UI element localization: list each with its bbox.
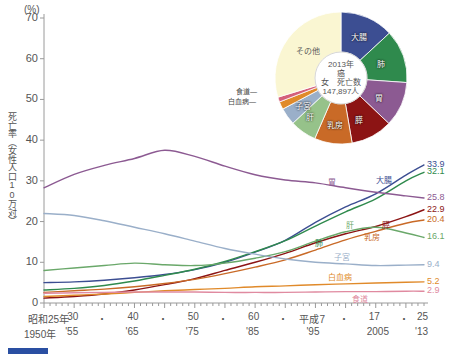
- x-tick-top-5: 50: [188, 311, 199, 322]
- pie-label-乳房: 乳房: [327, 119, 343, 130]
- end-value-肝: 16.1: [427, 231, 445, 241]
- x-tick-bottom-3: '75: [186, 326, 199, 337]
- x-tick-top-8: ・: [278, 311, 288, 326]
- x-tick-top-7: 60: [248, 311, 259, 322]
- inline-label-食道: 食道: [352, 293, 368, 304]
- pie-label-大腸: 大腸: [351, 31, 367, 42]
- pie-label-子宮: 子宮: [295, 100, 311, 111]
- x-tick-bottom-7: '13: [415, 326, 428, 337]
- x-tick-top-6: ・: [218, 311, 228, 326]
- pie-label-その他: その他: [296, 45, 320, 56]
- inline-label-乳房: 乳房: [364, 231, 380, 242]
- x-tick-bottom-6: 2005: [367, 326, 389, 337]
- pie-center-text: 2013年 癌 女 死亡数 147,897人: [304, 60, 378, 96]
- x-tick-top-10: ・: [339, 311, 349, 326]
- x-tick-bottom-0: 1950年: [24, 326, 56, 341]
- inline-label-子宮: 子宮: [334, 251, 350, 262]
- inline-label-白血病: 白血病: [328, 271, 352, 282]
- end-value-乳房: 20.4: [427, 214, 445, 224]
- series-line-膵: [44, 210, 424, 298]
- end-value-胃: 25.8: [427, 192, 445, 202]
- pie-center-line3: 女 死亡数: [304, 78, 378, 87]
- pie-center-year: 2013年: [304, 60, 378, 69]
- x-tick-top-11: 17: [369, 311, 380, 322]
- x-tick-top-13: 25: [417, 311, 428, 322]
- x-tick-bottom-5: '95: [306, 326, 319, 337]
- x-tick-bottom-2: '65: [125, 326, 138, 337]
- x-tick-bottom-1: '55: [65, 326, 78, 337]
- end-value-食道: 2.9: [427, 285, 440, 295]
- inline-label-膵: 膵: [382, 219, 390, 230]
- pie-leader-label-食道: 食道—: [236, 86, 257, 96]
- x-tick-bottom-4: '85: [246, 326, 259, 337]
- x-tick-top-2: ・: [97, 311, 107, 326]
- x-tick-top-4: ・: [158, 311, 168, 326]
- end-value-肺: 32.1: [427, 166, 445, 176]
- chart-root: (%) 死亡率（女性人口10万対） 706050403020100 大腸肺胃膵乳…: [0, 0, 458, 359]
- inline-label-肺: 肺: [315, 237, 323, 248]
- footer-swatch: [8, 348, 48, 354]
- series-line-胃: [44, 150, 424, 198]
- pie-label-肝: 肝: [306, 111, 314, 122]
- x-tick-top-3: 40: [127, 311, 138, 322]
- pie-label-膵: 膵: [355, 114, 363, 125]
- pie-center-count: 147,897人: [304, 87, 378, 96]
- end-value-膵: 22.9: [427, 204, 445, 214]
- pie-center-subject: 癌: [304, 69, 378, 78]
- x-tick-top-9: 平成7: [299, 311, 325, 326]
- x-tick-top-1: 30: [67, 311, 78, 322]
- x-tick-top-0: 昭和25年: [28, 311, 69, 326]
- inline-label-肝: 肝: [346, 219, 354, 230]
- pie-leader-label-白血病: 白血病—: [228, 96, 256, 106]
- end-value-子宮: 9.4: [427, 259, 440, 269]
- inline-label-胃: 胃: [328, 176, 336, 187]
- inline-label-大腸: 大腸: [376, 174, 392, 185]
- x-tick-top-12: ・: [399, 311, 409, 326]
